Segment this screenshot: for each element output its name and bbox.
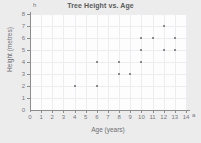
gridline-horizontal [30, 86, 186, 87]
data-point [96, 85, 98, 87]
x-axis-tick-mark [52, 110, 53, 113]
y-axis-tick-label: 7 [14, 23, 25, 29]
data-point [174, 49, 176, 51]
y-axis-symbol-label: h [33, 2, 36, 8]
data-point [174, 37, 176, 39]
x-axis-tick-mark [75, 110, 76, 113]
data-point [118, 73, 120, 75]
chart-title: Tree Height vs. Age [0, 2, 201, 9]
y-axis-tick-mark [27, 98, 30, 99]
y-axis-tick-mark [27, 74, 30, 75]
gridline-horizontal [30, 62, 186, 63]
y-axis-tick-label: 0 [14, 107, 25, 113]
scatter-chart: Tree Height vs. Age 01234567891011121314… [0, 0, 201, 143]
x-axis-tick-mark [119, 110, 120, 113]
data-point [163, 25, 165, 27]
y-axis-tick-mark [27, 26, 30, 27]
gridline-horizontal [30, 98, 186, 99]
x-axis-tick-mark [41, 110, 42, 113]
y-axis-tick-mark [27, 38, 30, 39]
x-axis-tick-mark [164, 110, 165, 113]
data-point [74, 85, 76, 87]
gridline-horizontal [30, 14, 186, 15]
y-axis-tick-label: 6 [14, 35, 25, 41]
y-axis-tick-mark [27, 50, 30, 51]
y-axis-tick-label: 3 [14, 71, 25, 77]
x-axis-line [30, 110, 190, 111]
x-axis-title: Age (years) [30, 126, 186, 133]
data-point [140, 61, 142, 63]
y-axis-tick-mark [27, 86, 30, 87]
gridline-vertical [186, 14, 187, 110]
y-axis-tick-label: 2 [14, 83, 25, 89]
data-point [129, 73, 131, 75]
data-point [96, 61, 98, 63]
plot-area [30, 14, 187, 110]
y-axis-title: Height (metres) [6, 15, 13, 85]
x-axis-tick-label: 14 [179, 114, 193, 120]
data-point [140, 49, 142, 51]
x-axis-tick-mark [97, 110, 98, 113]
data-point [118, 61, 120, 63]
x-axis-tick-mark [153, 110, 154, 113]
data-point [163, 49, 165, 51]
data-point [140, 37, 142, 39]
y-axis-tick-label: 5 [14, 47, 25, 53]
y-axis-tick-mark [27, 62, 30, 63]
gridline-horizontal [30, 38, 186, 39]
x-axis-tick-mark [86, 110, 87, 113]
y-axis-tick-mark [27, 14, 30, 15]
x-axis-tick-mark [175, 110, 176, 113]
y-axis-tick-label: 1 [14, 95, 25, 101]
x-axis-symbol-label: a [192, 112, 195, 118]
x-axis-tick-mark [130, 110, 131, 113]
data-point [152, 37, 154, 39]
y-axis-tick-label: 4 [14, 59, 25, 65]
x-axis-tick-mark [141, 110, 142, 113]
x-axis-tick-mark [63, 110, 64, 113]
gridline-horizontal [30, 74, 186, 75]
x-axis-tick-mark [108, 110, 109, 113]
y-axis-tick-label: 8 [14, 11, 25, 17]
x-axis-tick-mark [186, 110, 187, 113]
y-axis-line [30, 12, 31, 112]
